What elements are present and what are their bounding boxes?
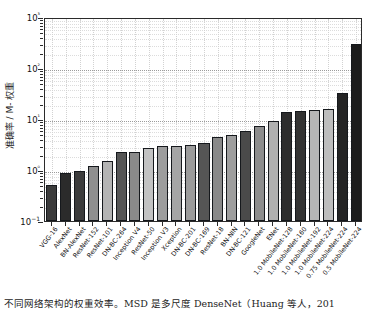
y-axis-minor-tick-mark (40, 105, 43, 106)
y-axis-minor-tick-mark (40, 176, 43, 177)
bar (88, 166, 99, 221)
bar (226, 135, 237, 221)
y-axis-minor-tick-mark (40, 45, 43, 46)
figure-caption: 不同网络架构的权重效率。MSD 是多尺度 DenseNet（Huang 等人，2… (4, 296, 369, 310)
y-axis-tick-mark (38, 69, 43, 70)
bar (268, 121, 279, 221)
bar (46, 185, 57, 221)
y-axis-minor-tick-mark (40, 186, 43, 187)
bar (157, 146, 168, 221)
bar (198, 143, 209, 221)
y-axis-minor-tick-mark (40, 80, 43, 81)
y-axis-minor-tick-mark (40, 198, 43, 199)
y-axis-minor-tick-mark (40, 96, 43, 97)
y-axis-minor-tick-mark (40, 135, 43, 136)
y-axis-minor-tick-mark (40, 125, 43, 126)
y-axis-minor-tick-mark (40, 122, 43, 123)
bar (337, 93, 348, 221)
y-axis-minor-tick-mark (40, 173, 43, 174)
x-axis-tick-labels: VGG-16AlexNetBN-AlexNetResNet-152ResNet-… (44, 226, 362, 288)
y-axis-tick-mark (38, 222, 43, 223)
y-axis-minor-tick-mark (40, 147, 43, 148)
y-axis-minor-tick-mark (40, 191, 43, 192)
bar (351, 44, 362, 221)
y-axis-minor-tick-mark (40, 54, 43, 55)
y-axis-minor-tick-mark (40, 128, 43, 129)
bar (295, 111, 306, 221)
bar (212, 137, 223, 221)
bar (171, 146, 182, 221)
bar (309, 110, 320, 221)
y-axis-minor-tick-mark (40, 182, 43, 183)
y-axis-minor-tick-mark (40, 29, 43, 30)
y-axis-minor-tick-mark (40, 74, 43, 75)
bar (129, 152, 140, 221)
y-axis-minor-tick-mark (40, 179, 43, 180)
bar-series (45, 19, 361, 221)
bar (240, 131, 251, 221)
y-axis-minor-tick-mark (40, 33, 43, 34)
plot-area (44, 18, 362, 222)
bar (143, 148, 154, 221)
y-axis-minor-tick-mark (40, 89, 43, 90)
y-axis-minor-tick-mark (40, 207, 43, 208)
y-axis-minor-tick-mark (40, 23, 43, 24)
bar (323, 109, 334, 221)
y-axis-minor-tick-mark (40, 131, 43, 132)
y-axis-minor-tick-mark (40, 84, 43, 85)
y-axis-minor-tick-mark (40, 38, 43, 39)
y-axis-tick-labels: 10−110⁰10¹10²10³ (16, 12, 42, 226)
y-axis-title-text: 准确率 / M- 权重 (4, 81, 17, 149)
y-axis-minor-tick-mark (40, 26, 43, 27)
figure-chart-weights-efficiency: 准确率 / M- 权重 10−110⁰10¹10²10³ VGG-16AlexN… (0, 0, 369, 313)
y-axis-tick-mark (38, 171, 43, 172)
y-axis-minor-tick-mark (40, 77, 43, 78)
bar (60, 173, 71, 221)
bar (74, 171, 85, 221)
y-axis-tick-mark (38, 18, 43, 19)
bar (102, 161, 113, 221)
y-axis-minor-tick-mark (40, 156, 43, 157)
y-axis-minor-tick-mark (40, 71, 43, 72)
bar (281, 112, 292, 221)
y-axis-minor-tick-mark (40, 140, 43, 141)
y-axis-minor-tick-mark (40, 20, 43, 21)
bar (116, 152, 127, 221)
bar (185, 145, 196, 221)
y-axis-tick-mark (38, 120, 43, 121)
bar (254, 126, 265, 221)
